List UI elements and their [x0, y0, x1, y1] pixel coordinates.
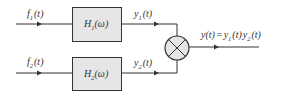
intermediate-signal-1: y1(t): [122, 8, 177, 36]
arrow-right-icon: [154, 71, 159, 76]
intermediate-label-1: y1(t): [133, 8, 153, 21]
input-label-1: f1(t): [27, 8, 44, 21]
arrow-right-icon: [214, 45, 219, 50]
input-label-2: f2(t): [27, 56, 44, 69]
arrow-right-icon: [37, 22, 42, 27]
arrow-right-icon: [37, 71, 42, 76]
output-equation: y(t)=y1(t)y2(t): [200, 29, 262, 42]
output-signal: y(t)=y1(t)y2(t): [189, 29, 262, 50]
intermediate-label-2: y2(t): [133, 57, 153, 70]
block-h2: H2(ω): [73, 58, 122, 91]
block-h1: H1(ω): [73, 8, 122, 42]
multiplier-node: [165, 36, 189, 60]
block-diagram: f1(t) f2(t) H1(ω) H2(ω) y1(t) y2(t) y(t)…: [0, 0, 298, 95]
input-signal-1: f1(t): [16, 8, 72, 27]
intermediate-signal-2: y2(t): [122, 57, 177, 76]
input-signal-2: f2(t): [16, 56, 72, 76]
arrow-right-icon: [154, 22, 159, 27]
block-h1-label: H1(ω): [83, 18, 109, 31]
block-h2-label: H2(ω): [83, 68, 109, 81]
